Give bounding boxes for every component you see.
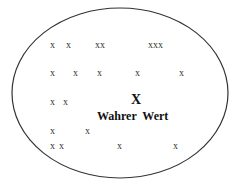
measurement-mark: x bbox=[50, 141, 55, 151]
measurement-mark: xx bbox=[95, 40, 105, 50]
accuracy-diagram: xxxxxxxxxxxxxxxxxxxx X Wahrer Wert bbox=[0, 0, 237, 186]
true-value-label: Wahrer Wert bbox=[97, 110, 168, 122]
measurement-mark: x bbox=[73, 68, 78, 78]
measurement-mark: x bbox=[117, 141, 122, 151]
measurement-mark: x bbox=[66, 40, 71, 50]
measurement-mark: x bbox=[50, 40, 55, 50]
measurement-mark: x bbox=[50, 68, 55, 78]
measurement-mark: x bbox=[50, 126, 55, 136]
ellipse-outline bbox=[0, 0, 237, 186]
measurement-mark: x bbox=[50, 97, 55, 107]
measurement-mark: x bbox=[85, 126, 90, 136]
measurement-mark: xxx bbox=[148, 40, 163, 50]
measurement-mark: x bbox=[173, 141, 178, 151]
measurement-mark: x bbox=[97, 68, 102, 78]
true-value-mark: X bbox=[131, 93, 141, 107]
measurement-mark: x bbox=[63, 97, 68, 107]
measurement-mark: x bbox=[135, 68, 140, 78]
measurement-mark: x bbox=[59, 141, 64, 151]
measurement-mark: x bbox=[179, 68, 184, 78]
